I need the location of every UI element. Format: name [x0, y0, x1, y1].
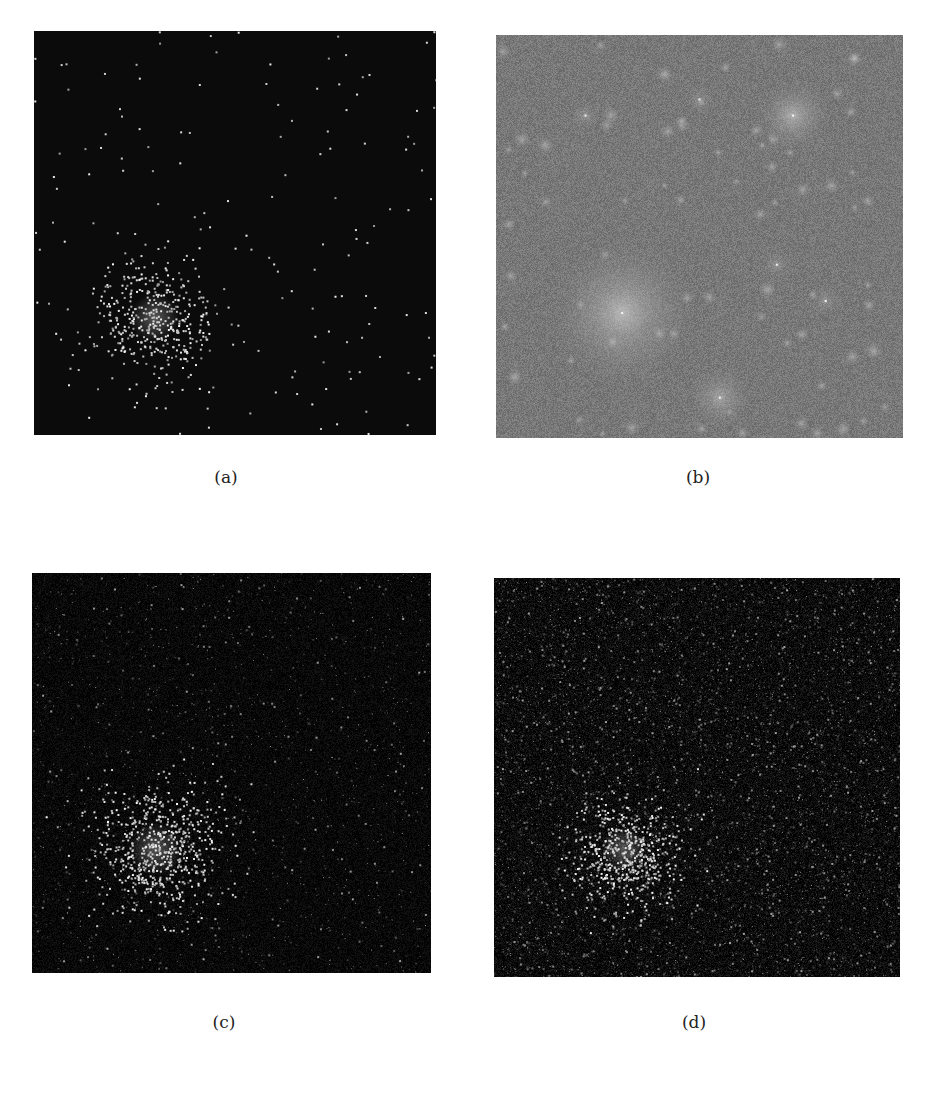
panel-b-canvas	[496, 35, 903, 438]
panel-d-canvas	[494, 578, 900, 977]
panel-c-canvas	[32, 573, 431, 973]
panel-a-image	[34, 31, 436, 435]
panel-c-image	[32, 573, 431, 973]
panel-a-canvas	[34, 31, 436, 435]
panel-d-caption: (d)	[664, 1012, 724, 1032]
panel-a-caption: (a)	[196, 467, 256, 487]
panel-b-caption: (b)	[668, 467, 728, 487]
panel-b-image	[496, 35, 903, 438]
panel-d-image	[494, 578, 900, 977]
panel-c-caption: (c)	[194, 1012, 254, 1032]
